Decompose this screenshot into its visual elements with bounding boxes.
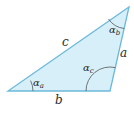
- side-label-c: c: [62, 35, 69, 49]
- triangle-diagram: c a b αa αb αc: [0, 0, 134, 116]
- side-label-b: b: [55, 93, 63, 107]
- triangle-shape: [8, 7, 129, 91]
- side-label-a: a: [120, 46, 127, 60]
